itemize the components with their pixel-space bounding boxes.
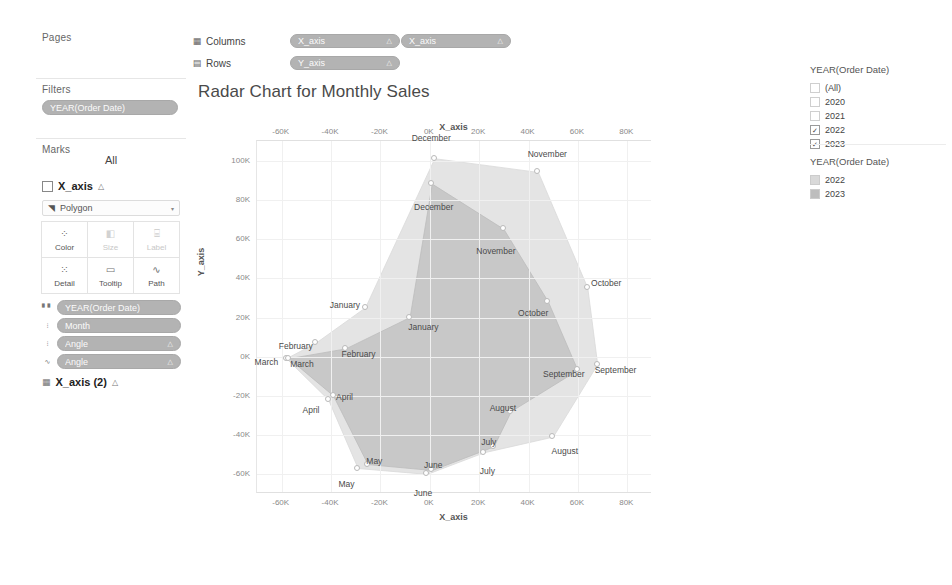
- marks-button-label[interactable]: ⌸ Label: [133, 221, 180, 258]
- x-axis-tick: -40K: [322, 498, 339, 507]
- y-axis-tick: -20K: [233, 390, 250, 399]
- data-point[interactable]: [549, 433, 555, 439]
- marks-pill-month[interactable]: Month: [57, 318, 181, 333]
- marks-button-size-label: Size: [103, 243, 119, 252]
- marks-all-label[interactable]: All: [36, 154, 186, 166]
- marks-pill-row-angle-path[interactable]: ∿ Angle △: [42, 354, 182, 369]
- x-axis-tick: -60K: [272, 127, 289, 136]
- month-label: March: [290, 359, 314, 369]
- columns-pill-x-axis-2[interactable]: X_axis △: [401, 34, 511, 48]
- marks-pills-list: ▘▘ YEAR(Order Date) ⁝ Month ⁝ Angle △: [42, 300, 182, 372]
- columns-pill-x-axis-1[interactable]: X_axis △: [290, 34, 400, 48]
- marks-pill-angle-detail[interactable]: Angle △: [57, 336, 181, 351]
- marks-pill-angle-path[interactable]: Angle △: [57, 354, 181, 369]
- filter-pill-year-order-date[interactable]: YEAR(Order Date): [42, 100, 178, 115]
- data-point[interactable]: [354, 465, 360, 471]
- data-point[interactable]: [480, 449, 486, 455]
- quick-filter-option[interactable]: 2020: [810, 95, 946, 109]
- color-legend-item[interactable]: 2022: [810, 173, 946, 187]
- gridline-vertical: [282, 141, 283, 492]
- left-side-panel: Pages Filters YEAR(Order Date) Marks All…: [36, 26, 187, 542]
- gridline-horizontal: [257, 396, 651, 397]
- marks-button-detail[interactable]: ⁙ Detail: [41, 257, 88, 294]
- pill-label: Y_axis: [298, 58, 383, 68]
- marks-pill-row-color[interactable]: ▘▘ YEAR(Order Date): [42, 300, 182, 315]
- marks-shelf: Marks All X_axis △ ◥ Polygon ▾ ⁘ Color ◧: [36, 138, 186, 542]
- checkbox-icon[interactable]: [810, 111, 820, 121]
- month-label: November: [476, 246, 515, 256]
- marks-card-x-axis[interactable]: X_axis △: [42, 180, 182, 192]
- marks-button-size[interactable]: ◧ Size: [87, 221, 134, 258]
- marks-button-color[interactable]: ⁘ Color: [41, 221, 88, 258]
- gridline-horizontal: [257, 161, 651, 162]
- data-point[interactable]: [312, 339, 318, 345]
- y-axis-tick: -60K: [233, 469, 250, 478]
- data-point[interactable]: [534, 168, 540, 174]
- x-axis-tick: 20K: [471, 127, 485, 136]
- radar-chart[interactable]: X_axis X_axis Y_axis 100K80K60K40K20K0K-…: [198, 112, 792, 532]
- quick-filter-option[interactable]: ✓2022: [810, 123, 946, 137]
- data-point[interactable]: [431, 155, 437, 161]
- gridline-vertical: [331, 141, 332, 492]
- color-swatch: [810, 175, 820, 185]
- marks-button-tooltip[interactable]: ▭ Tooltip: [87, 257, 134, 294]
- triangle-icon: △: [168, 358, 173, 366]
- marks-pill-row-angle-detail[interactable]: ⁝ Angle △: [42, 336, 182, 351]
- marks-card-x-axis-2[interactable]: ▦ X_axis (2) △: [42, 376, 182, 388]
- month-label: July: [481, 437, 496, 447]
- gridline-vertical: [380, 141, 381, 492]
- tableau-worksheet: Pages Filters YEAR(Order Date) Marks All…: [0, 26, 952, 559]
- triangle-icon: △: [498, 37, 503, 45]
- marks-pill-row-month[interactable]: ⁝ Month: [42, 318, 182, 333]
- bar-icon: ▦: [42, 377, 51, 387]
- checkbox-icon[interactable]: [810, 97, 820, 107]
- marks-button-path-label: Path: [148, 279, 164, 288]
- square-mark-icon: [42, 181, 53, 192]
- month-label: April: [336, 392, 353, 402]
- quick-filter-option[interactable]: 2021: [810, 109, 946, 123]
- data-point[interactable]: [584, 284, 590, 290]
- data-point[interactable]: [428, 180, 434, 186]
- triangle-icon: △: [387, 37, 392, 45]
- right-side-panel: YEAR(Order Date) (All)20202021✓2022✓2023…: [804, 26, 952, 542]
- marks-button-path[interactable]: ∿ Path: [133, 257, 180, 294]
- columns-shelf[interactable]: ▦ Columns X_axis △ X_axis △: [186, 30, 511, 52]
- color-legend-items: 20222023: [810, 173, 946, 201]
- color-legend-item[interactable]: 2023: [810, 187, 946, 201]
- y-axis-tick: 100K: [231, 155, 250, 164]
- filters-shelf[interactable]: Filters YEAR(Order Date): [36, 78, 186, 139]
- x-axis-tick: -60K: [272, 498, 289, 507]
- month-label: January: [330, 300, 360, 310]
- data-point[interactable]: [500, 225, 506, 231]
- data-point[interactable]: [544, 298, 550, 304]
- month-label: August: [552, 446, 578, 456]
- checkbox-icon[interactable]: ✓: [810, 125, 820, 135]
- marks-pill-label: Angle: [65, 339, 164, 349]
- data-point[interactable]: [406, 314, 412, 320]
- checkbox-icon[interactable]: [810, 83, 820, 93]
- x-axis-tick: -20K: [371, 498, 388, 507]
- quick-filter-option[interactable]: (All): [810, 81, 946, 95]
- month-label: January: [408, 322, 438, 332]
- x-axis-tick: -40K: [322, 127, 339, 136]
- mark-type-dropdown[interactable]: ◥ Polygon ▾: [42, 200, 180, 216]
- x-axis-tick: 40K: [520, 127, 534, 136]
- filter-pill-label: YEAR(Order Date): [50, 103, 170, 113]
- rows-shelf[interactable]: ▤ Rows Y_axis △: [186, 52, 400, 74]
- month-label: September: [595, 365, 637, 375]
- month-label: May: [366, 456, 382, 466]
- marks-button-detail-label: Detail: [54, 279, 74, 288]
- pages-shelf[interactable]: Pages: [36, 26, 186, 79]
- marks-button-tooltip-label: Tooltip: [99, 279, 122, 288]
- month-label: May: [339, 479, 355, 489]
- page-title: Radar Chart for Monthly Sales: [198, 82, 430, 102]
- marks-buttons-grid: ⁘ Color ◧ Size ⌸ Label ⁙ Detail ▭ Tool: [42, 222, 180, 294]
- size-icon: ◧: [106, 228, 115, 240]
- pill-label: X_axis: [409, 36, 494, 46]
- month-label: October: [591, 278, 621, 288]
- marks-pill-year-order-date[interactable]: YEAR(Order Date): [57, 300, 181, 315]
- data-point[interactable]: [330, 392, 336, 398]
- plot-area[interactable]: [256, 140, 651, 493]
- rows-pill-y-axis[interactable]: Y_axis △: [290, 56, 400, 70]
- data-point[interactable]: [362, 304, 368, 310]
